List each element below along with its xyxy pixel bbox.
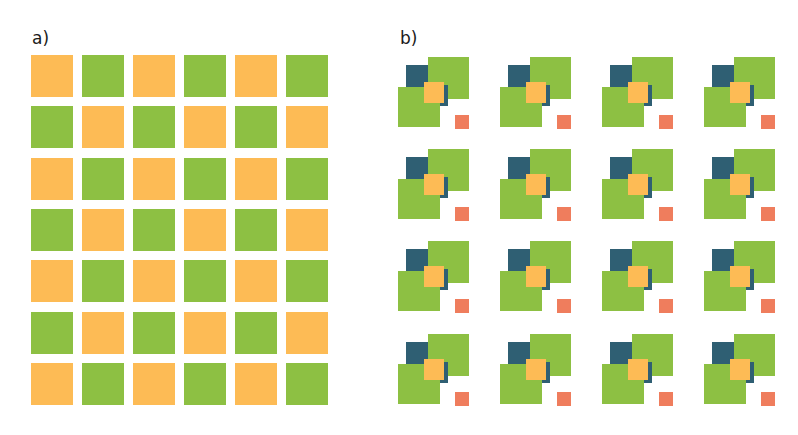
green-square [133, 106, 175, 148]
orange-square-center [526, 82, 546, 103]
overlapping-squares-tile [632, 241, 633, 242]
red-square-small [455, 207, 469, 221]
red-square-small [557, 207, 571, 221]
orange-square [286, 106, 328, 148]
orange-square [82, 106, 124, 148]
orange-square-center [730, 174, 750, 195]
green-square [184, 55, 226, 97]
orange-square-center [730, 266, 750, 287]
red-square-small [761, 392, 775, 406]
orange-square-center [628, 359, 648, 380]
red-square-small [659, 115, 673, 129]
green-square [286, 363, 328, 405]
red-square-small [557, 115, 571, 129]
orange-square-center [730, 82, 750, 103]
orange-square-center [628, 82, 648, 103]
green-square [82, 158, 124, 200]
overlapping-squares-tile [428, 57, 429, 58]
red-square-small [761, 299, 775, 313]
green-square [184, 363, 226, 405]
green-square [235, 312, 277, 354]
green-square [82, 363, 124, 405]
red-square-small [455, 392, 469, 406]
orange-square [133, 158, 175, 200]
green-square [235, 106, 277, 148]
overlapping-squares-tile [428, 241, 429, 242]
red-square-small [557, 299, 571, 313]
orange-square [31, 55, 73, 97]
overlapping-squares-tile [632, 334, 633, 335]
orange-square-center [424, 174, 444, 195]
panel-b-label: b) [400, 28, 417, 48]
orange-square-center [424, 359, 444, 380]
green-square [286, 55, 328, 97]
overlapping-squares-tile [734, 334, 735, 335]
orange-square-center [526, 174, 546, 195]
red-square-small [455, 115, 469, 129]
orange-square [82, 312, 124, 354]
overlapping-squares-tile [530, 149, 531, 150]
orange-square [235, 260, 277, 302]
red-square-small [761, 115, 775, 129]
orange-square [31, 260, 73, 302]
orange-square [31, 158, 73, 200]
green-square [82, 55, 124, 97]
panel-a-label: a) [32, 28, 49, 48]
overlapping-squares-tile [530, 57, 531, 58]
green-square [235, 209, 277, 251]
red-square-small [659, 299, 673, 313]
orange-square-center [526, 266, 546, 287]
orange-square [235, 363, 277, 405]
orange-square [184, 106, 226, 148]
overlapping-squares-tile [734, 149, 735, 150]
green-square [133, 312, 175, 354]
orange-square-center [730, 359, 750, 380]
green-square [31, 106, 73, 148]
red-square-small [761, 207, 775, 221]
orange-square [31, 363, 73, 405]
orange-square [184, 209, 226, 251]
orange-square [133, 260, 175, 302]
orange-square [235, 55, 277, 97]
overlapping-squares-tile [428, 149, 429, 150]
orange-square-center [628, 174, 648, 195]
green-square [133, 209, 175, 251]
orange-square-center [628, 266, 648, 287]
overlapping-squares-tile [632, 149, 633, 150]
overlapping-squares-tile [734, 241, 735, 242]
orange-square [82, 209, 124, 251]
green-square [286, 260, 328, 302]
overlapping-squares-tile [530, 334, 531, 335]
green-square [31, 312, 73, 354]
orange-square [184, 312, 226, 354]
orange-square-center [424, 266, 444, 287]
green-square [184, 260, 226, 302]
green-square [184, 158, 226, 200]
overlapping-squares-tile [734, 57, 735, 58]
orange-square [133, 55, 175, 97]
orange-square [286, 209, 328, 251]
red-square-small [659, 392, 673, 406]
overlapping-squares-tile [530, 241, 531, 242]
green-square [286, 158, 328, 200]
red-square-small [557, 392, 571, 406]
orange-square-center [424, 82, 444, 103]
red-square-small [455, 299, 469, 313]
orange-square-center [526, 359, 546, 380]
overlapping-squares-tile [428, 334, 429, 335]
orange-square [235, 158, 277, 200]
orange-square [286, 312, 328, 354]
orange-square [133, 363, 175, 405]
red-square-small [659, 207, 673, 221]
green-square [31, 209, 73, 251]
overlapping-squares-tile [632, 57, 633, 58]
green-square [82, 260, 124, 302]
